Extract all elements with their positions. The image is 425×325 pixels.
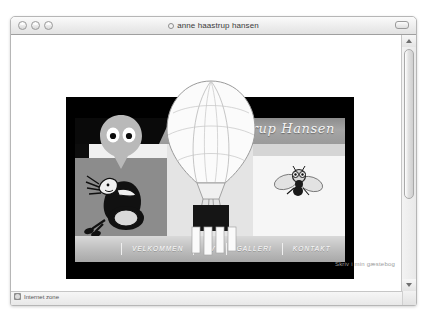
panel-left-corner (75, 144, 89, 158)
figure-illustration (81, 162, 163, 236)
nav-item-kontakt[interactable]: KONTAKT (282, 243, 341, 255)
horizontal-scrollbar[interactable]: Internet zone (11, 291, 416, 305)
chevron-down-icon (406, 283, 412, 287)
window-titlebar: anne haastrup hansen (11, 17, 416, 35)
guestbook-link[interactable]: Skriv i min gæstebog (335, 261, 395, 267)
fly-illustration (273, 164, 325, 204)
status-bar: Internet zone (14, 293, 59, 300)
toolbar-toggle-button[interactable] (395, 21, 409, 29)
page-favicon-icon (168, 23, 174, 29)
window-title-container: anne haastrup hansen (11, 19, 416, 32)
vertical-scrollbar[interactable] (401, 35, 416, 291)
resize-grip[interactable] (402, 291, 416, 305)
alien-head-illustration (97, 113, 145, 171)
web-page-canvas: Haastrup Hansen (11, 35, 400, 291)
screenshot-root: anne haastrup hansen Haastrup Hansen (0, 0, 425, 325)
scroll-up-button[interactable] (402, 35, 416, 47)
panel-right-band (253, 144, 345, 156)
window-title: anne haastrup hansen (177, 21, 259, 30)
status-zone-label: Internet zone (24, 294, 59, 300)
window-content: Haastrup Hansen (11, 35, 416, 305)
security-zone-icon (14, 293, 21, 300)
vertical-scrollbar-thumb[interactable] (404, 49, 414, 199)
scroll-down-button[interactable] (402, 279, 416, 291)
chevron-up-icon (406, 39, 412, 43)
browser-window: anne haastrup hansen Haastrup Hansen (10, 16, 417, 306)
hot-air-balloon-illustration (163, 79, 259, 259)
